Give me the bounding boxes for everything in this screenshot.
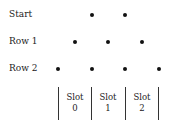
slot-word: Slot [126, 92, 158, 103]
peg-dot [123, 67, 127, 71]
row-label-2: Row 2 [9, 63, 38, 73]
peg-dot [90, 13, 94, 17]
peg-dot [73, 40, 77, 44]
peg-dot [106, 40, 110, 44]
peg-dot [157, 67, 161, 71]
slot-number: 1 [92, 103, 124, 114]
slot-0: Slot0 [59, 92, 91, 114]
slot-1: Slot1 [92, 92, 124, 114]
slot-number: 0 [59, 103, 91, 114]
peg-dot [140, 40, 144, 44]
peg-dot [90, 67, 94, 71]
slot-divider [158, 87, 159, 120]
slot-2: Slot2 [126, 92, 158, 114]
slot-word: Slot [59, 92, 91, 103]
row-label-start: Start [9, 9, 32, 19]
row-label-1: Row 1 [9, 36, 38, 46]
slot-word: Slot [92, 92, 124, 103]
slot-number: 2 [126, 103, 158, 114]
peg-dot [123, 13, 127, 17]
peg-dot [56, 67, 60, 71]
